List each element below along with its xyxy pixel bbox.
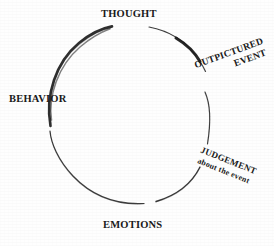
arc-thought-to-outpictured-thick bbox=[176, 38, 200, 62]
arc-thought-to-outpictured bbox=[149, 27, 196, 56]
arc-ink-pass-lower-left bbox=[50, 132, 144, 204]
arc-emotions-to-behavior bbox=[50, 131, 144, 204]
diagram-canvas: THOUGHT OUTPICTURED EVENT JUDGEMENT abou… bbox=[0, 0, 274, 246]
node-label-emotions: EMOTIONS bbox=[103, 219, 162, 230]
arc-judgement-to-emotions bbox=[156, 167, 200, 202]
arc-ink-pass-lower-right bbox=[156, 168, 200, 202]
node-label-behavior: BEHAVIOR bbox=[9, 93, 66, 104]
node-label-thought: THOUGHT bbox=[101, 8, 157, 19]
cycle-circle-graphic bbox=[0, 0, 274, 246]
